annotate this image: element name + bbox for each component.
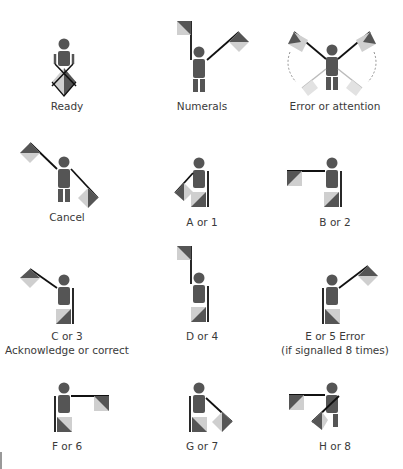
signal-label: F or 6 — [0, 440, 134, 453]
d-4-figure-icon — [135, 240, 269, 370]
signal-cancel: Cancel — [0, 120, 134, 240]
signal-g-7: G or 7 — [135, 370, 269, 469]
signal-e-5: E or 5 Error (if signalled 8 times) — [268, 240, 402, 370]
signal-label: Numerals — [135, 100, 269, 113]
signal-label: D or 4 — [135, 330, 269, 343]
signal-sublabel: (if signalled 8 times) — [268, 344, 402, 357]
signal-error-attention: Error or attention — [268, 0, 402, 120]
signal-sublabel: Acknowledge or correct — [0, 344, 134, 357]
signal-label: B or 2 — [268, 216, 402, 229]
signal-h-8: H or 8 — [268, 370, 402, 469]
signal-label: E or 5 Error — [268, 330, 402, 343]
signal-label: G or 7 — [135, 440, 269, 453]
signal-label: Error or attention — [268, 100, 402, 113]
signal-label: Cancel — [0, 211, 134, 224]
signal-label: A or 1 — [135, 216, 269, 229]
signal-label: H or 8 — [268, 440, 402, 453]
f-6-figure-icon — [0, 370, 134, 469]
edge-mark — [0, 452, 2, 469]
signal-d-4: D or 4 — [135, 240, 269, 370]
g-7-figure-icon — [135, 370, 269, 469]
signal-numerals: Numerals — [135, 0, 269, 120]
signal-f-6: F or 6 — [0, 370, 134, 469]
signal-label: Ready — [0, 100, 134, 113]
signal-ready: Ready — [0, 0, 134, 120]
signal-a-1: A or 1 — [135, 120, 269, 240]
signal-b-2: B or 2 — [268, 120, 402, 240]
signal-c-3: C or 3 Acknowledge or correct — [0, 240, 134, 370]
signal-label: C or 3 — [0, 330, 134, 343]
h-8-figure-icon — [268, 370, 402, 469]
